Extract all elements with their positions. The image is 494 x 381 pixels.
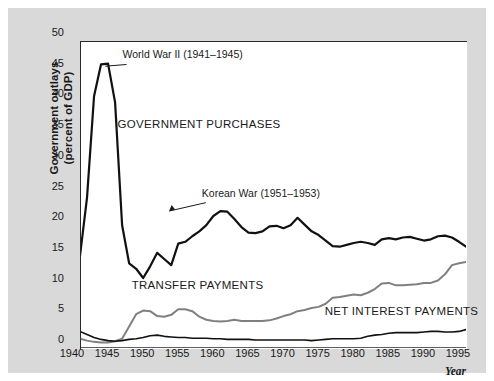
x-tick-label: 1990 <box>403 348 443 359</box>
y-tick-label: 0 <box>42 334 64 345</box>
x-tick-label: 1975 <box>298 348 338 359</box>
series-line-0 <box>80 64 466 278</box>
x-tick-label: 1980 <box>333 348 373 359</box>
series-line-1 <box>80 262 466 342</box>
y-tick-label: 25 <box>42 181 64 192</box>
x-tick-label: 1955 <box>157 348 197 359</box>
x-tick-label: 1945 <box>87 348 127 359</box>
series-label-1: TRANSFER PAYMENTS <box>132 279 264 291</box>
y-tick-label: 15 <box>42 242 64 253</box>
series-line-2 <box>80 330 466 342</box>
annotation-label-0: World War II (1941–1945) <box>123 48 243 60</box>
x-tick-label: 1970 <box>263 348 303 359</box>
y-tick-label: 35 <box>42 119 64 130</box>
y-tick-label: 5 <box>42 303 64 314</box>
y-tick-label: 45 <box>42 58 64 69</box>
series-label-0: GOVERNMENT PURCHASES <box>118 118 281 130</box>
x-tick-label: 1960 <box>192 348 232 359</box>
y-tick-label: 40 <box>42 88 64 99</box>
y-tick-label: 30 <box>42 150 64 161</box>
x-axis-title: Year <box>445 365 466 377</box>
x-tick-label: 1950 <box>122 348 162 359</box>
series-label-2: NET INTEREST PAYMENTS <box>325 305 479 317</box>
x-tick-label: 1995 <box>438 348 478 359</box>
figure-panel: Government outlays (percent of GDP) 0510… <box>8 8 486 373</box>
x-tick-label: 1985 <box>368 348 408 359</box>
y-tick-label: 10 <box>42 273 64 284</box>
y-tick-label: 20 <box>42 211 64 222</box>
x-tick-label: 1940 <box>52 348 92 359</box>
annotation-leader-1 <box>169 203 206 211</box>
x-tick-label: 1965 <box>227 348 267 359</box>
y-tick-label: 50 <box>42 27 64 38</box>
chart-figure: Government outlays (percent of GDP) 0510… <box>0 0 494 381</box>
annotation-label-1: Korean War (1951–1953) <box>202 187 320 199</box>
